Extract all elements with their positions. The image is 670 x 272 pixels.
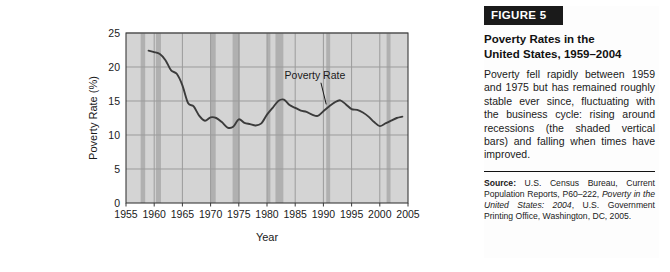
- x-tick-label-1970: 1970: [199, 208, 223, 220]
- y-tick-label-10: 10: [108, 129, 120, 141]
- recession-band-8: [387, 33, 391, 203]
- recession-band-2: [156, 33, 161, 203]
- x-tick-label-1995: 1995: [340, 208, 364, 220]
- recession-band-5: [267, 33, 270, 203]
- poverty-rate-line-chart: 0510152025 19551960196519701975198019851…: [0, 0, 468, 272]
- y-tick-label-5: 5: [114, 163, 120, 175]
- figure-description: Poverty fell rapidly between 1959 and 19…: [484, 68, 659, 162]
- source-label: Source:: [484, 178, 516, 188]
- x-tick-label-2000: 2000: [368, 208, 392, 220]
- recession-band-6: [275, 33, 283, 203]
- chart-panel: 0510152025 19551960196519701975198019851…: [0, 0, 468, 272]
- figure-title-line-2: United States, 1959–2004: [484, 48, 621, 60]
- figure-title: Poverty Rates in the United States, 1959…: [484, 32, 659, 61]
- y-tick-label-25: 25: [108, 27, 120, 39]
- y-tick-label-15: 15: [108, 95, 120, 107]
- caption-panel: FIGURE 5 Poverty Rates in the United Sta…: [484, 6, 659, 258]
- x-tick-label-1980: 1980: [255, 208, 279, 220]
- x-tick-label-1955: 1955: [114, 208, 138, 220]
- x-tick-label-1990: 1990: [312, 208, 336, 220]
- figure-source: Source: U.S. Census Bureau, Current Popu…: [484, 178, 659, 223]
- recession-band-7: [326, 33, 330, 203]
- x-tick-label-1975: 1975: [227, 208, 251, 220]
- y-axis-title: Poverty Rate (%): [87, 76, 99, 160]
- y-tick-label-20: 20: [108, 61, 120, 73]
- y-tick-label-0: 0: [114, 197, 120, 209]
- figure-number-banner: FIGURE 5: [484, 6, 563, 25]
- x-tick-label-1985: 1985: [284, 208, 308, 220]
- figure-title-line-1: Poverty Rates in the: [484, 33, 595, 45]
- caption-divider: [484, 171, 655, 172]
- x-tick-label-1965: 1965: [171, 208, 195, 220]
- x-tick-label-1960: 1960: [143, 208, 167, 220]
- figure-page: 0510152025 19551960196519701975198019851…: [0, 0, 670, 272]
- x-axis-title: Year: [256, 231, 279, 243]
- x-axis-tick-labels: 1955196019651970197519801985199019952000…: [114, 208, 420, 220]
- x-tick-label-2005: 2005: [396, 208, 420, 220]
- annotation-label: Poverty Rate: [285, 69, 346, 81]
- recession-band-1: [141, 33, 146, 203]
- y-axis-tick-labels: 0510152025: [108, 27, 120, 209]
